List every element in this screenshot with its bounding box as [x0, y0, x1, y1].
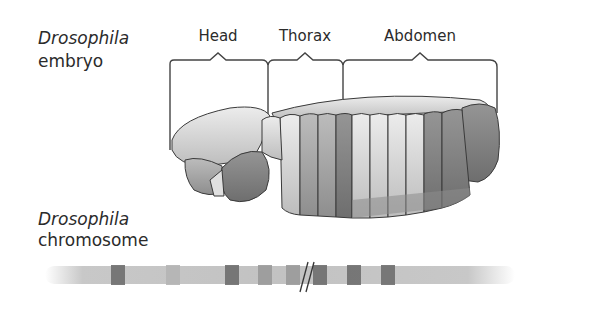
chromosome-break-icon	[0, 0, 612, 336]
